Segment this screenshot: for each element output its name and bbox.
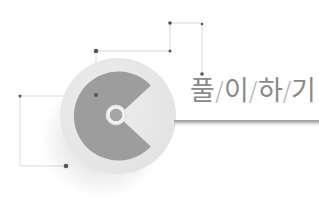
title-underline-shadow	[174, 124, 319, 127]
title-graphic: 풀/이/하/기	[0, 0, 319, 203]
title-separator: /	[249, 75, 259, 109]
title-char: 풀	[190, 74, 216, 108]
title-char: 이	[224, 74, 250, 108]
title-separator: /	[283, 75, 293, 109]
dot	[169, 50, 172, 53]
dot	[64, 164, 69, 169]
dot	[168, 21, 172, 25]
title-char: 하	[258, 74, 284, 108]
dot	[94, 49, 99, 54]
page-title: 풀/이/하/기	[190, 74, 317, 108]
dot	[19, 95, 22, 98]
hub-center	[110, 109, 123, 122]
title-char: 기	[291, 74, 317, 108]
title-separator: /	[215, 75, 225, 109]
dot	[94, 93, 98, 97]
dot	[201, 23, 204, 26]
